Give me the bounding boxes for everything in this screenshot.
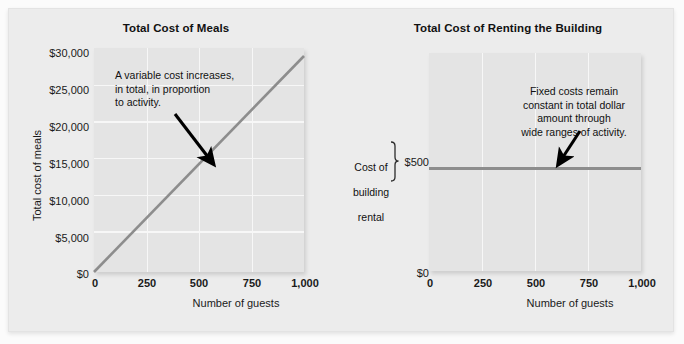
chart-title-meals: Total Cost of Meals (9, 22, 343, 34)
x-tick-label: 0 (427, 277, 433, 289)
bracket-label-line: rental (345, 211, 397, 224)
y-tick-label: $500 (405, 156, 429, 168)
x-tick-label: 750 (580, 277, 598, 289)
x-tick-label: 750 (243, 277, 261, 289)
x-axis-tick-labels-rent: 0 250 500 750 1,000 (343, 277, 673, 293)
annotation-line: wide ranges of activity. (498, 126, 650, 140)
y-tick-label: $25,000 (49, 84, 89, 96)
x-tick-label: 0 (92, 277, 98, 289)
bracket-label-line: Cost of (345, 161, 397, 174)
annotation-line: constant in total dollar (498, 99, 650, 113)
bracket-label-line: building (345, 186, 397, 199)
y-axis-title-meals: Total cost of meals (31, 130, 43, 221)
annotation-line: Fixed costs remain (498, 85, 650, 99)
x-tick-label: 500 (190, 277, 208, 289)
x-tick-label: 1,000 (291, 277, 319, 289)
y-tick-label: $15,000 (49, 158, 89, 170)
annotation-fixed-cost: Fixed costs remain constant in total dol… (498, 85, 650, 139)
y-tick-label: $30,000 (49, 47, 89, 59)
exhibit-container: Total Cost of Meals $30,000 $25,000 $20,… (0, 0, 684, 344)
x-axis-tick-labels-meals: 0 250 500 750 1,000 (9, 277, 343, 293)
annotation-line: in total, in proportion (115, 83, 265, 97)
y-tick-label: $10,000 (49, 195, 89, 207)
bracket-label-building-rental: Cost of building rental (345, 148, 397, 236)
chart-title-rent: Total Cost of Renting the Building (343, 22, 673, 34)
fixed-cost-line (429, 167, 641, 170)
chart-panel-rent: Total Cost of Renting the Building $500 … (343, 9, 673, 331)
x-tick-label: 500 (527, 277, 545, 289)
x-tick-label: 250 (474, 277, 492, 289)
figure-card: Total Cost of Meals $30,000 $25,000 $20,… (8, 8, 674, 332)
gridline-vertical (482, 53, 483, 271)
x-axis-title-rent: Number of guests (343, 297, 684, 309)
annotation-line: A variable cost increases, (115, 69, 265, 83)
y-tick-label: $5,000 (55, 232, 89, 244)
chart-panel-meals: Total Cost of Meals $30,000 $25,000 $20,… (9, 9, 343, 331)
annotation-variable-cost: A variable cost increases, in total, in … (115, 69, 265, 110)
annotation-line: amount through (498, 112, 650, 126)
annotation-line: to activity. (115, 96, 265, 110)
x-tick-label: 1,000 (628, 277, 656, 289)
x-tick-label: 250 (138, 277, 156, 289)
y-tick-label: $20,000 (49, 121, 89, 133)
